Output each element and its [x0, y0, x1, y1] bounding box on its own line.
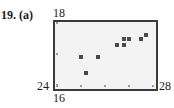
data-point: [115, 43, 119, 47]
y-tick-mark: [56, 22, 58, 24]
data-point: [84, 71, 88, 75]
x-tick-mark: [128, 85, 130, 87]
x-tick-mark: [80, 85, 82, 87]
y-min-label: 16: [53, 92, 65, 104]
data-point: [139, 37, 143, 41]
y-tick-mark: [56, 53, 58, 55]
data-point: [122, 37, 126, 41]
y-max-label: 18: [53, 7, 65, 19]
problem-label: 19. (a): [1, 9, 33, 21]
data-point: [127, 37, 131, 41]
data-point: [144, 33, 148, 37]
scatter-plot-frame: [53, 20, 158, 91]
data-point: [122, 43, 126, 47]
x-max-label: 28: [159, 80, 171, 92]
x-min-label: 24: [37, 80, 49, 92]
x-tick-mark: [152, 85, 154, 87]
data-point: [79, 55, 83, 59]
data-point: [96, 55, 100, 59]
y-tick-mark: [56, 84, 58, 86]
x-tick-mark: [104, 85, 106, 87]
